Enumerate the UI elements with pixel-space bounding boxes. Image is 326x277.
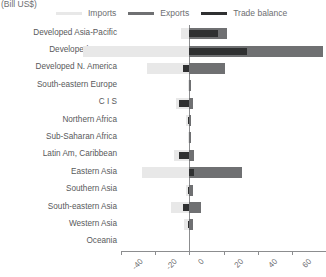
axis-tick bbox=[155, 251, 156, 255]
plot-area: Developed Asia-PacificDeveloped EuropeDe… bbox=[0, 25, 326, 251]
chart-row bbox=[121, 95, 326, 112]
bar-exports bbox=[189, 150, 194, 161]
legend-swatch-icon bbox=[56, 12, 82, 15]
bar-trade-balance bbox=[188, 117, 190, 124]
category-label: Latin Am, Caribbean bbox=[43, 150, 117, 158]
legend-label: Imports bbox=[88, 8, 116, 18]
chart-row bbox=[121, 112, 326, 129]
axis-tick bbox=[292, 251, 293, 255]
axis-tick bbox=[189, 251, 190, 255]
bar-trade-balance bbox=[183, 204, 190, 211]
bar-trade-balance bbox=[183, 65, 190, 72]
category-label: Developed N. America bbox=[36, 63, 117, 71]
axis-tick-label: 40 bbox=[266, 257, 279, 270]
legend-entry: Exports bbox=[128, 8, 189, 18]
bar-exports bbox=[189, 219, 192, 230]
category-label: Southern Asia bbox=[66, 185, 117, 193]
chart-row bbox=[121, 181, 326, 198]
bar-exports bbox=[189, 63, 225, 74]
chart-row bbox=[121, 216, 326, 233]
chart-legend: ImportsExportsTrade balance bbox=[56, 8, 299, 18]
chart-row bbox=[121, 199, 326, 216]
bar-trade-balance bbox=[189, 48, 247, 55]
bar-trade-balance bbox=[189, 30, 218, 37]
bar-exports bbox=[189, 202, 201, 213]
category-label: Eastern Asia bbox=[71, 168, 117, 176]
axis-tick-label: -20 bbox=[165, 257, 180, 272]
axis-tick bbox=[258, 251, 259, 255]
axis-tick-label: 20 bbox=[232, 257, 245, 270]
category-label: Developed Asia-Pacific bbox=[33, 29, 117, 37]
bar-trade-balance bbox=[179, 100, 189, 107]
category-label: Sub-Saharan Africa bbox=[46, 133, 117, 141]
chart-row bbox=[121, 164, 326, 181]
bar-trade-balance bbox=[188, 221, 190, 228]
legend-label: Trade balance bbox=[233, 8, 287, 18]
chart-row bbox=[121, 60, 326, 77]
legend-entry: Imports bbox=[56, 8, 116, 18]
legend-swatch-icon bbox=[128, 12, 154, 15]
chart-row bbox=[121, 234, 326, 251]
bar-trade-balance bbox=[179, 152, 189, 159]
category-label: C I S bbox=[99, 98, 117, 106]
bars-area bbox=[121, 25, 326, 251]
category-axis-labels: Developed Asia-PacificDeveloped EuropeDe… bbox=[0, 25, 121, 251]
legend-swatch-icon bbox=[201, 12, 227, 15]
category-label: Oceania bbox=[87, 237, 118, 245]
chart-row bbox=[121, 77, 326, 94]
bar-imports bbox=[181, 28, 190, 39]
axis-tick bbox=[121, 251, 122, 255]
axis-tick-label: -40 bbox=[130, 257, 145, 272]
bar-exports bbox=[189, 115, 191, 126]
bar-exports bbox=[189, 80, 191, 91]
axis-tick-label: 0 bbox=[197, 257, 207, 267]
bar-exports bbox=[189, 185, 192, 196]
axis-tick bbox=[224, 251, 225, 255]
bar-exports bbox=[189, 167, 242, 178]
legend-label: Exports bbox=[160, 8, 189, 18]
value-axis: -40-20020406080 bbox=[121, 251, 326, 277]
category-label: South-eastern Asia bbox=[48, 203, 117, 211]
chart-row bbox=[121, 129, 326, 146]
chart-row bbox=[121, 25, 326, 42]
category-label: Western Asia bbox=[69, 220, 117, 228]
category-label: South-eastern Europe bbox=[37, 81, 117, 89]
bar-trade-balance bbox=[189, 169, 194, 176]
bar-exports bbox=[189, 132, 191, 143]
bar-exports bbox=[189, 98, 192, 109]
bar-imports bbox=[142, 167, 190, 178]
chart-row bbox=[121, 42, 326, 59]
chart-unit-label: (Bill US$) bbox=[1, 0, 37, 9]
chart-row bbox=[121, 147, 326, 164]
legend-entry: Trade balance bbox=[201, 8, 287, 18]
trade-balance-chart: (Bill US$) ImportsExportsTrade balance D… bbox=[0, 0, 326, 277]
category-label: Northern Africa bbox=[62, 116, 117, 124]
bar-trade-balance bbox=[188, 187, 190, 194]
axis-tick-label: 60 bbox=[300, 257, 313, 270]
bar-imports bbox=[83, 46, 189, 57]
